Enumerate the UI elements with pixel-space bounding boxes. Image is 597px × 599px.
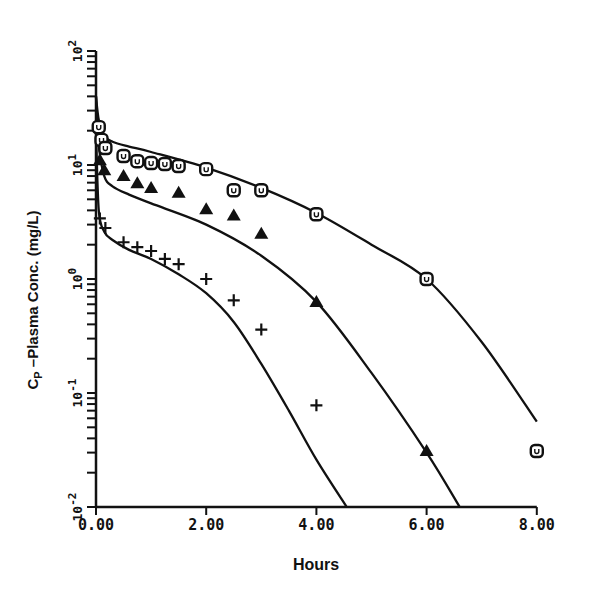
data-markers <box>93 121 543 457</box>
circle-marker <box>118 150 130 162</box>
circle-marker <box>228 184 240 196</box>
tick-labels: 0.002.004.006.008.0010-210-1100101102 <box>66 40 555 534</box>
x-tick-label: 2.00 <box>188 516 224 534</box>
axes <box>87 51 537 515</box>
plus-marker <box>228 294 240 306</box>
x-tick-label: 4.00 <box>298 516 334 534</box>
y-tick-label-text: 101 <box>66 153 85 176</box>
circle-marker <box>173 160 185 172</box>
triangle-marker <box>172 186 186 198</box>
y-tick-label-text: 10-1 <box>66 378 85 407</box>
y-tick-label-text: 102 <box>66 40 85 62</box>
y-tick-label: 100 <box>66 268 85 290</box>
pk-chart: 0.002.004.006.008.0010-210-1100101102 <box>0 0 597 599</box>
y-axis-label-rest: –Plasma Conc. (mg/L) <box>24 210 41 371</box>
plus-marker <box>118 236 130 248</box>
circle-marker <box>159 158 171 170</box>
y-axis-label-main: C <box>24 379 41 390</box>
triangle-marker <box>130 176 144 188</box>
circle-marker <box>310 208 322 220</box>
y-tick-label: 101 <box>66 153 85 176</box>
y-axis-label-sub: P <box>32 371 44 378</box>
y-tick-label-text: 100 <box>66 268 85 290</box>
plus-marker <box>145 245 157 257</box>
y-tick-label: 10-1 <box>66 378 85 407</box>
circle-marker <box>93 121 105 133</box>
plus-marker <box>200 273 212 285</box>
circle-marker <box>145 157 157 169</box>
x-tick-label: 6.00 <box>409 516 445 534</box>
triangle-marker <box>254 227 268 239</box>
triangle-marker <box>199 202 213 214</box>
triangle-marker <box>144 181 158 193</box>
x-axis-label: Hours <box>293 556 339 574</box>
circle-marker <box>200 163 212 175</box>
plus-marker <box>255 324 267 336</box>
triangle-marker <box>227 209 241 221</box>
circle-marker <box>421 273 433 285</box>
y-tick-label: 102 <box>66 40 85 62</box>
circle-marker <box>131 155 143 167</box>
plus-marker <box>310 399 322 411</box>
plus-marker <box>173 258 185 270</box>
circle-marker <box>531 445 543 457</box>
circle-marker <box>99 142 111 154</box>
y-tick-label-text: 10-2 <box>66 493 85 522</box>
y-tick-label: 10-2 <box>66 493 85 522</box>
triangle-marker <box>117 169 131 181</box>
circle-marker <box>255 184 267 196</box>
x-tick-label: 8.00 <box>519 516 555 534</box>
y-axis-label: CP –Plasma Conc. (mg/L) <box>24 170 48 430</box>
